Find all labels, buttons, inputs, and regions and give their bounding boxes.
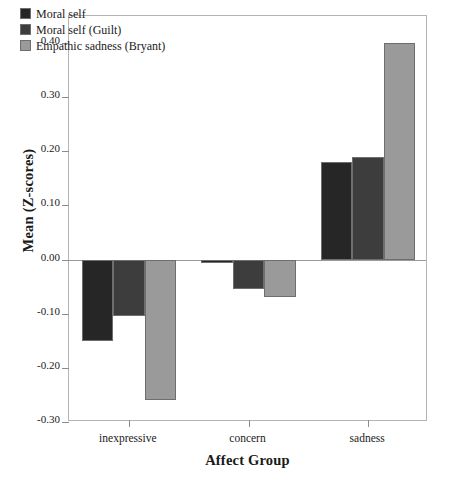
bar <box>384 43 416 260</box>
y-axis-tick-label: 0.10 <box>0 196 60 208</box>
y-axis-tick <box>62 260 69 261</box>
legend-item-label: Moral self <box>36 8 86 20</box>
plot-area <box>68 15 427 421</box>
bar <box>201 260 233 263</box>
x-axis-tick <box>368 420 369 427</box>
x-axis-tick-label: concern <box>188 432 308 444</box>
y-axis-tick-label: -0.10 <box>0 305 60 317</box>
x-axis-tick-label: inexpressive <box>68 432 188 444</box>
legend-swatch-icon <box>20 24 31 35</box>
bar <box>352 157 384 260</box>
y-axis-tick-label: 0.00 <box>0 251 60 263</box>
bar <box>82 260 114 341</box>
bar <box>113 260 145 317</box>
legend-item: Moral self <box>20 6 165 21</box>
bar <box>145 260 177 401</box>
legend-item-label: Empathic sadness (Bryant) <box>36 40 165 52</box>
legend-item: Moral self (Guilt) <box>20 22 165 37</box>
y-axis-tick <box>62 151 69 152</box>
legend-item: Empathic sadness (Bryant) <box>20 38 165 53</box>
x-axis-tick-label: sadness <box>307 432 427 444</box>
figure: Mean (Z-scores) 0.400.300.200.100.00-0.1… <box>0 0 450 483</box>
y-axis-tick <box>62 422 69 423</box>
x-axis-tick <box>129 420 130 427</box>
y-axis-tick-label: 0.30 <box>0 88 60 100</box>
y-axis-tick <box>62 314 69 315</box>
bar <box>321 162 353 259</box>
legend-item-label: Moral self (Guilt) <box>36 24 121 36</box>
legend: Moral selfMoral self (Guilt)Empathic sad… <box>20 6 165 54</box>
y-axis-tick-label: 0.20 <box>0 142 60 154</box>
bar <box>264 260 296 298</box>
legend-swatch-icon <box>20 40 31 51</box>
x-axis-tick <box>249 420 250 427</box>
y-axis-tick-label: -0.30 <box>0 413 60 425</box>
y-axis-tick <box>62 368 69 369</box>
y-axis-tick-label: -0.20 <box>0 359 60 371</box>
y-axis-tick <box>62 97 69 98</box>
legend-swatch-icon <box>20 8 31 19</box>
x-axis-title: Affect Group <box>68 452 427 469</box>
bar <box>233 260 265 290</box>
y-axis-tick <box>62 205 69 206</box>
